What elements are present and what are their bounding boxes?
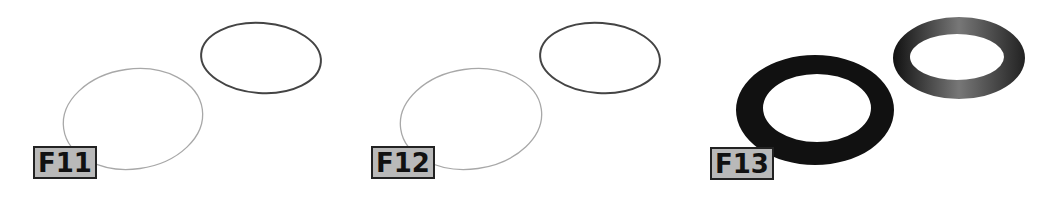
- panel-f13: F13: [700, 0, 1050, 200]
- panel-label: F12: [371, 146, 435, 179]
- panel-f11: F11: [0, 0, 350, 200]
- panel-label: F13: [710, 147, 774, 180]
- panel-f12: F12: [350, 0, 700, 200]
- panel-label: F11: [33, 146, 97, 179]
